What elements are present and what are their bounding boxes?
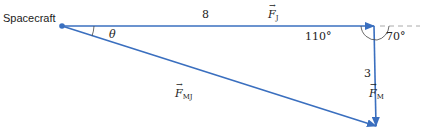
fm-label: FM [369,87,384,101]
spacecraft-label: Spacecraft [3,12,56,24]
angle-110-label: 110° [305,30,332,43]
spacecraft-point [59,23,65,29]
fj-symbol: F [268,8,276,21]
fj-magnitude-label: 8 [202,8,209,21]
fmj-label: FMJ [175,87,193,101]
theta-label: θ [109,28,116,41]
fj-label: FJ [268,8,278,22]
fm-subscript: M [377,93,384,101]
fj-subscript: J [276,14,279,22]
fm-magnitude-label: 3 [364,67,371,80]
fm-symbol: F [369,87,377,100]
angle-70-label: 70° [386,30,406,43]
fmj-subscript: MJ [183,93,193,101]
theta-arc [92,26,94,36]
vector-diagram: Spacecraft θ 8 FJ 110° 70° 3 FM FMJ [0,0,433,138]
fmj-symbol: F [175,87,183,100]
